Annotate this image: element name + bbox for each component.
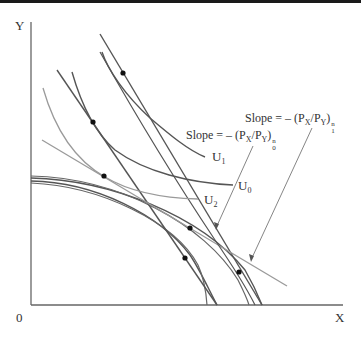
y-axis-label: Y [15,19,24,32]
x-axis-label: X [335,311,344,324]
indifference-curve-u2 [43,88,198,199]
point-f [236,269,241,274]
point-e [182,255,187,260]
u0-label: U0 [238,179,251,195]
point-c [101,173,106,178]
point-a [120,70,125,75]
slope0-annotation: Slope = – (PX/PY)n0 [186,129,276,152]
u1-label: U1 [212,150,225,166]
point-b [90,119,95,124]
u2-label: U2 [204,193,217,209]
point-d [187,225,192,230]
diagram-canvas [0,0,361,341]
origin-label: 0 [16,311,23,324]
ppf-outer [31,178,262,305]
